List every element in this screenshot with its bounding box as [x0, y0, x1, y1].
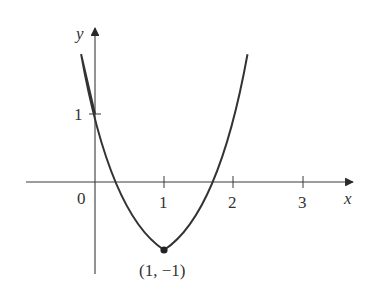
y-tick-label-1: 1 [74, 105, 83, 124]
x-tick-label-1: 1 [159, 193, 168, 212]
x-tick-label-3: 3 [298, 193, 307, 212]
vertex-label: (1, −1) [139, 261, 185, 280]
y-axis-label: y [74, 24, 84, 43]
x-axis-label: x [343, 189, 352, 208]
x-tick-label-2: 2 [228, 193, 237, 212]
origin-label: 0 [77, 189, 86, 208]
parabola-curve [81, 54, 247, 250]
vertex-point [160, 246, 167, 253]
parabola-plot: y x 0 1 2 3 1 (1, −1) [0, 0, 379, 290]
